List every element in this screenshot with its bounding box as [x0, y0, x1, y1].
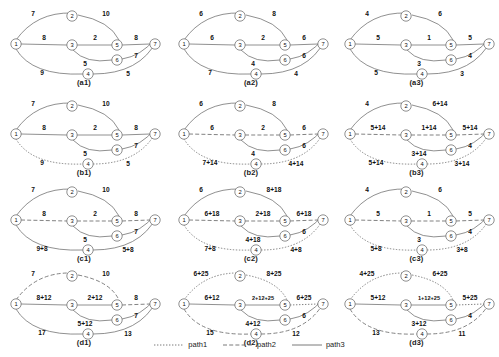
edge-label-1-2: 6 — [199, 186, 203, 193]
edge-label-6-7: 6 — [302, 312, 306, 319]
edge-label-1-2: 4 — [365, 100, 369, 107]
edge-1-3-solid — [355, 44, 401, 45]
edge-3-6-solid — [407, 50, 446, 61]
edge-label-1-2: 7 — [31, 10, 35, 17]
graph-panel-b3: 46+145+141+145+143+1445+143+141234567(b3… — [334, 90, 499, 176]
node-label-6: 6 — [283, 57, 286, 63]
legend-swatch-path1 — [154, 341, 184, 349]
node-label-7: 7 — [153, 41, 156, 47]
edge-label-1-3: 5 — [376, 34, 380, 41]
edge-5-7-dashed — [456, 134, 484, 135]
edge-1-3-dashed — [189, 134, 235, 135]
edge-5-7-dashed — [456, 220, 484, 221]
edge-label-5-7: 6 — [302, 34, 306, 41]
edge-label-1-2: 4 — [365, 186, 369, 193]
node-label-3: 3 — [70, 132, 73, 138]
edge-label-1-3: 8 — [42, 124, 46, 131]
edge-label-1-4: 5+14 — [369, 159, 384, 166]
edge-label-4-7: 4+8 — [290, 246, 302, 253]
edge-label-3-6: 4 — [251, 150, 255, 157]
edge-1-4-dotted — [184, 139, 251, 164]
node-label-6: 6 — [115, 317, 118, 323]
node-label-2: 2 — [70, 273, 73, 279]
node-label-6: 6 — [115, 233, 118, 239]
graph-panel-a3: 4651534531234567(a3) — [334, 0, 499, 90]
node-label-2: 2 — [404, 103, 407, 109]
node-label-6: 6 — [449, 233, 452, 239]
edge-label-1-3: 8 — [42, 210, 46, 217]
edge-label-1-3: 6 — [210, 34, 214, 41]
edge-label-4-7: 3 — [460, 70, 464, 77]
node-label-1: 1 — [182, 217, 185, 223]
edge-1-3-solid — [21, 134, 67, 135]
edge-label-3-6: 3+12 — [412, 320, 427, 327]
edge-2-5-solid — [246, 105, 287, 130]
node-label-3: 3 — [404, 218, 407, 224]
edge-label-3-6: 4+12 — [246, 320, 261, 327]
edge-label-2-5: 10 — [102, 270, 110, 277]
edge-2-5-solid — [78, 105, 119, 130]
node-label-6: 6 — [449, 147, 452, 153]
edge-label-3-6: 4+18 — [246, 236, 261, 243]
node-label-7: 7 — [321, 41, 324, 47]
edge-label-1-3: 8 — [42, 34, 46, 41]
node-label-1: 1 — [348, 131, 351, 137]
edge-label-1-3: 5 — [376, 210, 380, 217]
edge-label-6-7: 6 — [302, 52, 306, 59]
edge-label-5-7: 8 — [134, 210, 138, 217]
edge-label-1-2: 4 — [365, 10, 369, 17]
edge-label-6-7: 7 — [134, 228, 138, 235]
legend-item-path2: path2 — [223, 340, 276, 349]
edge-label-1-4: 5 — [374, 69, 378, 76]
legend-swatch-path3 — [292, 341, 322, 349]
node-label-5: 5 — [115, 302, 118, 308]
node-label-3: 3 — [70, 302, 73, 308]
edge-5-7-dotted — [456, 304, 484, 305]
edge-label-2-5: 8+18 — [267, 186, 282, 193]
node-label-6: 6 — [283, 147, 286, 153]
edge-2-5-solid — [78, 191, 119, 216]
node-label-7: 7 — [487, 217, 490, 223]
edge-label-4-7: 5 — [126, 160, 130, 167]
edge-label-1-3: 5+12 — [371, 294, 386, 301]
edge-1-3-dashed — [21, 220, 67, 221]
node-label-7: 7 — [321, 131, 324, 137]
edge-label-4-7: 3+8 — [456, 246, 468, 253]
edge-label-1-4: 9 — [40, 159, 44, 166]
edge-1-3-solid — [21, 304, 67, 305]
edge-label-2-5: 10 — [102, 186, 110, 193]
edge-label-4-7: 4+14 — [289, 160, 304, 167]
edge-label-3-5: 1+14 — [422, 124, 437, 131]
node-label-6: 6 — [115, 57, 118, 63]
node-label-3: 3 — [404, 42, 407, 48]
node-label-2: 2 — [70, 13, 73, 19]
node-label-1: 1 — [348, 217, 351, 223]
node-label-5: 5 — [449, 302, 452, 308]
edge-label-3-5: 2+18 — [256, 210, 271, 217]
edge-label-1-3: 6+18 — [205, 210, 220, 217]
legend: path1path2path3 — [0, 332, 499, 357]
edge-label-6-7: 7 — [134, 52, 138, 59]
node-label-5: 5 — [449, 132, 452, 138]
node-label-2: 2 — [238, 13, 241, 19]
edge-3-6-solid — [241, 140, 280, 151]
figure-grid: 71082857951234567(a1)6862646741234567(a2… — [0, 0, 499, 357]
edge-3-6-solid — [241, 50, 280, 61]
edge-label-1-4: 7+8 — [204, 245, 216, 252]
node-label-7: 7 — [153, 217, 156, 223]
edge-3-6-solid — [407, 226, 446, 237]
node-label-7: 7 — [153, 301, 156, 307]
node-label-3: 3 — [404, 132, 407, 138]
legend-item-path1: path1 — [154, 340, 207, 349]
node-label-7: 7 — [321, 301, 324, 307]
edge-label-5-7: 8 — [134, 124, 138, 131]
node-label-6: 6 — [449, 57, 452, 63]
node-label-5: 5 — [283, 132, 286, 138]
node-label-5: 5 — [115, 132, 118, 138]
edge-label-3-6: 4 — [251, 60, 255, 67]
edge-label-1-2: 6+25 — [194, 270, 209, 277]
edge-2-5-solid — [412, 15, 453, 40]
edge-label-3-6: 3+14 — [412, 150, 427, 157]
graph-panel-b2: 68626467+144+141234567(b2) — [168, 90, 334, 176]
edge-label-1-3: 8+12 — [37, 294, 52, 301]
